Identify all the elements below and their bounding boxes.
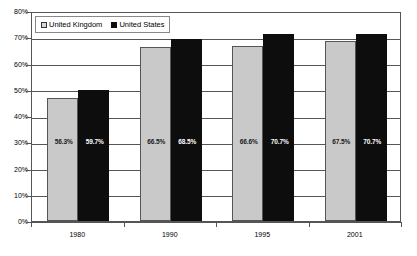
bar: 56.3% xyxy=(47,98,78,221)
bar-value-label: 68.5% xyxy=(172,138,203,145)
x-tick-mark xyxy=(216,222,217,227)
x-axis-label: 1990 xyxy=(135,231,205,238)
x-tick-mark xyxy=(124,222,125,227)
y-tick-label: 10% xyxy=(2,192,28,200)
bar: 66.6% xyxy=(232,46,263,221)
y-tick-label: 0% xyxy=(2,218,28,226)
chart-legend: United Kingdom United States xyxy=(35,16,170,33)
bars-area: 56.3%59.7%66.5%68.5%66.6%70.7%67.5%70.7% xyxy=(32,13,400,221)
bar-value-label: 70.7% xyxy=(264,138,295,145)
legend-item-uk: United Kingdom xyxy=(41,20,102,29)
bar: 67.5% xyxy=(325,41,356,221)
legend-swatch-uk xyxy=(41,22,47,28)
bar-group: 67.5%70.7% xyxy=(325,13,387,221)
bar-group: 66.6%70.7% xyxy=(232,13,294,221)
bar-value-label: 70.7% xyxy=(357,138,388,145)
y-tick-label: 40% xyxy=(2,113,28,121)
x-axis-label: 1980 xyxy=(42,231,112,238)
x-tick-mark xyxy=(31,222,32,227)
bar-group: 56.3%59.7% xyxy=(47,13,109,221)
x-axis-label: 2001 xyxy=(320,231,390,238)
bar-value-label: 66.6% xyxy=(233,138,264,145)
bar: 70.7% xyxy=(263,34,294,221)
bar: 59.7% xyxy=(78,90,109,221)
legend-swatch-us xyxy=(111,22,117,28)
legend-item-us: United States xyxy=(111,20,164,29)
y-tick-label: 80% xyxy=(2,8,28,16)
legend-label-uk: United Kingdom xyxy=(49,20,102,29)
bar-chart: 0%10%20%30%40%50%60%70%80% 56.3%59.7%66.… xyxy=(0,0,417,256)
y-tick-label: 50% xyxy=(2,87,28,95)
bar-group: 66.5%68.5% xyxy=(140,13,202,221)
bar: 68.5% xyxy=(171,39,202,221)
bar-value-label: 56.3% xyxy=(48,138,79,145)
y-tick-label: 20% xyxy=(2,166,28,174)
x-tick-mark xyxy=(309,222,310,227)
bar-value-label: 66.5% xyxy=(141,138,172,145)
y-tick-label: 60% xyxy=(2,61,28,69)
bar-value-label: 59.7% xyxy=(79,138,110,145)
bar-value-label: 67.5% xyxy=(326,138,357,145)
bar: 66.5% xyxy=(140,47,171,221)
plot-area: 56.3%59.7%66.5%68.5%66.6%70.7%67.5%70.7% xyxy=(31,12,401,222)
y-tick-label: 70% xyxy=(2,34,28,42)
x-tick-mark xyxy=(401,222,402,227)
bar: 70.7% xyxy=(356,34,387,221)
y-tick-label: 30% xyxy=(2,139,28,147)
x-axis-label: 1995 xyxy=(227,231,297,238)
legend-label-us: United States xyxy=(119,20,164,29)
